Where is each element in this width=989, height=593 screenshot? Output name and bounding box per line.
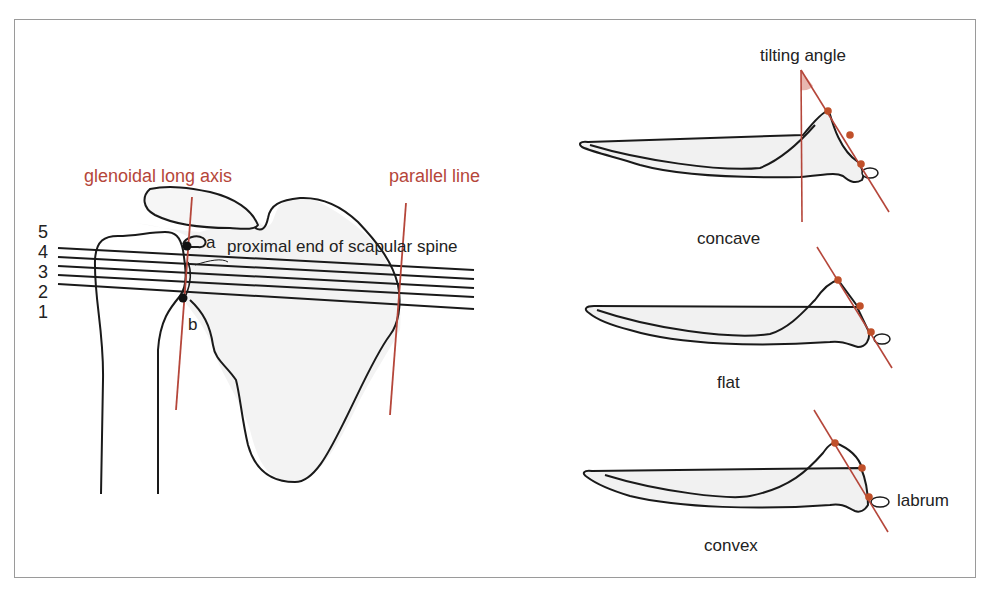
- point-b-label: b: [188, 315, 197, 334]
- glenoid-profile-convex: labrum convex: [584, 410, 949, 555]
- flat-label: flat: [717, 373, 740, 392]
- flat-glenoid-shape: [586, 306, 869, 347]
- parallel-line-label: parallel line: [389, 166, 480, 186]
- point-b-marker: [179, 294, 188, 303]
- convex-glenoid-shape: [584, 468, 868, 512]
- glenoid-profile-flat: flat: [586, 247, 892, 392]
- point-a-label: a: [206, 233, 216, 252]
- glenoid-profile-concave: tilting angle concave: [580, 46, 889, 248]
- point-a-marker: [183, 242, 192, 251]
- line-number-4: 4: [38, 242, 48, 262]
- glenoidal-long-axis-label: glenoidal long axis: [84, 166, 232, 186]
- convex-label: convex: [704, 536, 758, 555]
- line-number-3: 3: [38, 262, 48, 282]
- scapular-spine-label: proximal end of scapular spine: [227, 237, 458, 256]
- labrum-label: labrum: [897, 491, 949, 510]
- acromion-outline: [145, 187, 258, 229]
- scapula-lateral-view: glenoidal long axis parallel line proxim…: [38, 166, 480, 494]
- line-number-1: 1: [38, 302, 48, 322]
- concave-glenoid-shape: [580, 111, 863, 182]
- tilting-angle-label: tilting angle: [760, 46, 846, 65]
- scapula-diagram: glenoidal long axis parallel line proxim…: [0, 0, 989, 593]
- line-number-2: 2: [38, 282, 48, 302]
- convex-labrum: [871, 497, 889, 507]
- line-number-5: 5: [38, 222, 48, 242]
- concave-label: concave: [697, 229, 760, 248]
